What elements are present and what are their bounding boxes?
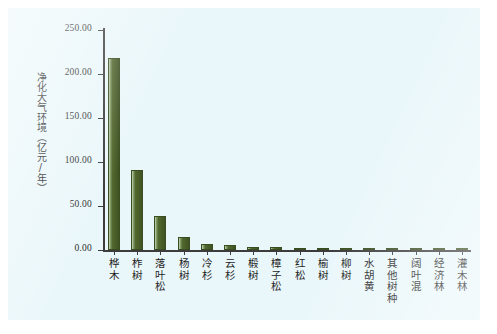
x-tick-label: 桦木 [108,258,121,281]
y-tick-label: 100.00 [65,155,92,165]
x-tick [369,250,370,255]
x-tick-label: 柞树 [131,258,144,281]
x-tick [323,250,324,255]
bar [131,170,143,250]
bar [294,248,306,250]
x-tick-label: 杨树 [177,258,190,281]
bar [154,216,166,250]
x-tick-label: 经济林 [432,258,445,293]
y-tick-label: 50.00 [70,199,92,209]
x-tick [114,250,115,255]
x-tick-label: 落叶松 [154,258,167,293]
bar [201,244,213,250]
bar [224,245,236,250]
x-tick [184,250,185,255]
y-tick-label: 0.00 [75,243,92,253]
bar [108,58,120,250]
x-tick-label: 柳树 [340,258,353,281]
x-tick [276,250,277,255]
x-tick [439,250,440,255]
x-tick-label: 椴树 [247,258,260,281]
x-tick [416,250,417,255]
y-axis-line [103,28,105,252]
bar [178,237,190,250]
x-tick [392,250,393,255]
x-tick-label: 其他树种 [386,258,399,304]
bar [386,248,398,250]
x-tick-label: 樟子松 [270,258,283,293]
bar [363,248,375,250]
y-tick-label: 150.00 [65,111,92,121]
x-tick [160,250,161,255]
x-tick-label: 水胡黄 [363,258,376,293]
x-tick [253,250,254,255]
x-tick-label: 红松 [293,258,306,281]
x-tick-label: 榆树 [316,258,329,281]
x-tick [300,250,301,255]
chart-figure: 净化大气环境（亿元/年） 0.0050.00100.00150.00200.00… [0,0,497,334]
bar [247,247,259,250]
y-axis-title: 净化大气环境（亿元/年） [30,72,46,193]
y-tick-label: 200.00 [65,67,92,77]
bar [456,248,468,250]
x-tick [230,250,231,255]
y-tick: 150.00 [98,118,104,119]
bar [317,248,329,250]
plot-area: 0.0050.00100.00150.00200.00250.00 桦木柞树落叶… [103,30,475,250]
x-tick-label: 云杉 [224,258,237,281]
x-tick-label: 冷杉 [200,258,213,281]
x-tick [462,250,463,255]
bar [410,248,422,250]
x-tick [137,250,138,255]
bar [270,247,282,250]
y-tick-label: 250.00 [65,23,92,33]
y-tick: 50.00 [98,206,104,207]
bar [340,248,352,250]
y-tick: 100.00 [98,162,104,163]
x-tick-label: 阔叶混 [409,258,422,293]
y-tick: 0.00 [98,250,104,251]
x-tick [346,250,347,255]
x-tick-label: 灌木林 [456,258,469,293]
y-tick: 200.00 [98,74,104,75]
bar [433,248,445,250]
y-tick: 250.00 [98,30,104,31]
x-tick [207,250,208,255]
